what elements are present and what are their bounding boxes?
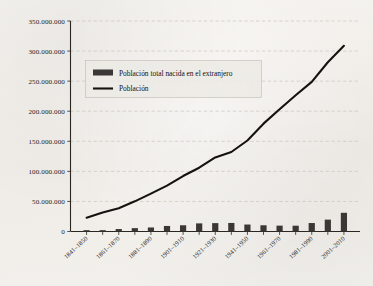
bar-series-foreign-born <box>83 213 347 232</box>
legend-label-population: Población <box>119 84 149 93</box>
bar <box>341 213 347 232</box>
x-tick-label: 2001–2010 <box>320 235 346 260</box>
bar <box>325 220 331 232</box>
y-tick-label: 350.000.000 <box>28 18 65 26</box>
bar <box>148 227 154 231</box>
bar <box>83 230 89 231</box>
x-tick-label: 1881–1890 <box>127 235 153 260</box>
bar <box>100 230 106 231</box>
x-tick-label: 1941–1950 <box>223 235 249 260</box>
x-tick-label: 1961–1970 <box>255 235 281 260</box>
legend-swatch-foreign-born <box>93 70 113 76</box>
bar <box>180 225 186 231</box>
bar <box>260 225 266 231</box>
population-chart: 050.000.000100.000.000150.000.000200.000… <box>0 0 373 286</box>
bar <box>196 223 202 231</box>
x-tick-label: 1841–1850 <box>62 235 88 260</box>
x-tick-label: 1861–1870 <box>94 235 120 260</box>
bar <box>164 226 170 232</box>
legend-background <box>86 61 262 98</box>
x-tick-label: 1981–1990 <box>287 235 313 260</box>
bar <box>276 226 282 232</box>
y-tick-label: 0 <box>61 228 65 236</box>
bar <box>309 223 315 231</box>
y-tick-label: 50.000.000 <box>32 198 65 206</box>
chart-canvas: 050.000.000100.000.000150.000.000200.000… <box>0 0 373 286</box>
chart-legend: Población total nacida en el extranjero … <box>86 61 262 98</box>
x-tick-label: 1901–1910 <box>159 235 185 260</box>
bar <box>228 223 234 232</box>
y-tick-label: 150.000.000 <box>28 138 65 146</box>
y-tick-label: 200.000.000 <box>28 108 65 116</box>
bar <box>116 229 122 231</box>
gridline-group <box>71 21 361 201</box>
y-tick-label: 250.000.000 <box>28 78 65 86</box>
bar <box>244 225 250 232</box>
x-axis-tick-labels: 1841–18501861–18701881–18901901–19101921… <box>62 235 346 260</box>
bar <box>132 228 138 231</box>
bar <box>212 223 218 231</box>
y-axis-tick-labels: 050.000.000100.000.000150.000.000200.000… <box>28 18 65 237</box>
y-tick-label: 100.000.000 <box>28 168 65 176</box>
y-tick-label: 300.000.000 <box>28 48 65 56</box>
x-tick-label: 1921–1930 <box>191 235 217 260</box>
bar <box>293 226 299 232</box>
legend-label-foreign-born: Población total nacida en el extranjero <box>119 69 233 78</box>
